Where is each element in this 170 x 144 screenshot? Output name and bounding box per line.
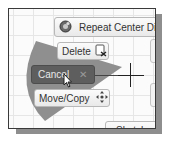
sketch-dropdown[interactable]: Sketch ▼ [105, 121, 156, 129]
move-copy-label: Move/Copy [39, 93, 90, 104]
chevron-down-icon: ▼ [150, 126, 156, 130]
crosshair-horizontal [118, 75, 144, 76]
crosshair-vertical [130, 63, 131, 87]
sketch-label: Sketch [116, 125, 147, 130]
sketch-canvas[interactable]: Repeat Center Dia Delete Cancel ✕ Move/C… [8, 8, 156, 129]
menu-item-stub-right-bottom[interactable] [150, 83, 156, 107]
circle-center-icon [59, 20, 72, 35]
repeat-label: Repeat Center Dia [79, 22, 156, 33]
delete-icon [95, 44, 107, 59]
delete-button[interactable]: Delete [57, 42, 109, 60]
move-arrows-icon [96, 91, 108, 105]
repeat-center-diameter-button[interactable]: Repeat Center Dia [54, 17, 156, 37]
menu-item-stub-right-top[interactable] [150, 39, 156, 63]
delete-label: Delete [62, 46, 91, 57]
close-icon: ✕ [79, 69, 87, 80]
mouse-pointer-icon [63, 73, 73, 88]
move-copy-button[interactable]: Move/Copy [34, 89, 110, 107]
